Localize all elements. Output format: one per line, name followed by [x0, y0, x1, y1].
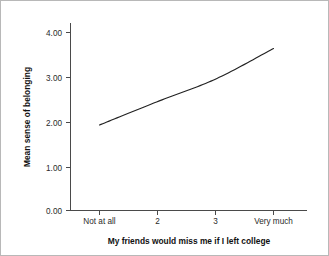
x-tick-label-3: Very much — [254, 217, 293, 226]
x-tick-label-2: 3 — [213, 217, 218, 226]
x-tick-label-1: 2 — [155, 217, 160, 226]
y-tick-label-3: 3.00 — [46, 74, 62, 83]
y-tick-label-4: 4.00 — [46, 29, 62, 38]
y-axis-title: Mean sense of belonging — [22, 67, 32, 167]
x-tick-label-0: Not at all — [83, 217, 115, 226]
x-axis-ticks — [100, 211, 274, 216]
y-tick-label-0: 0.00 — [46, 207, 62, 216]
y-axis-ticks — [66, 33, 71, 211]
y-tick-label-1: 1.00 — [46, 164, 62, 173]
line-chart: 4.00 3.00 2.00 1.00 0.00 Not at all 2 3 … — [1, 1, 329, 256]
y-tick-label-2: 2.00 — [46, 119, 62, 128]
series-line-mean-sense-of-belonging — [100, 49, 274, 126]
x-axis-title: My friends would miss me if I left colle… — [108, 236, 271, 246]
chart-screenshot: 4.00 3.00 2.00 1.00 0.00 Not at all 2 3 … — [0, 0, 329, 256]
